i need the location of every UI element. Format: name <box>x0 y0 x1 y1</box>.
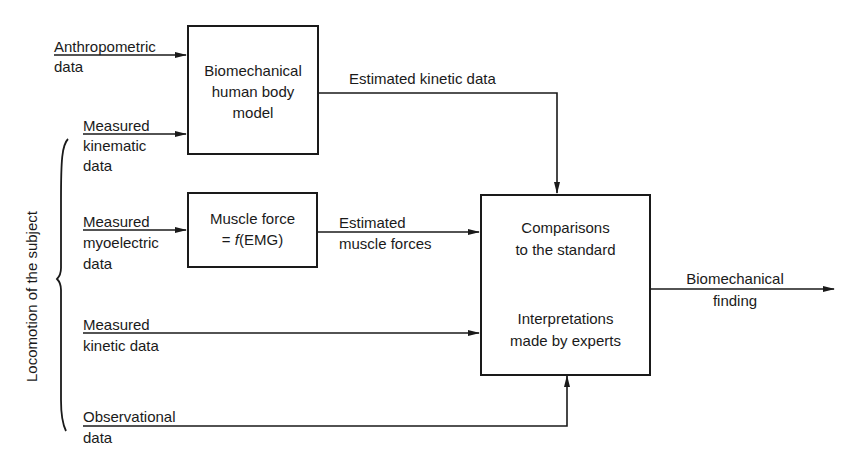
edge-estimated-kinetic: Estimated kinetic data <box>349 70 496 88</box>
muscle-force-box: Muscle force = f(EMG) <box>187 192 318 268</box>
output-line1: Biomechanical <box>675 270 795 288</box>
muscle-force-arg: (EMG) <box>239 231 283 248</box>
body-model-box: Biomechanical human body model <box>187 25 319 155</box>
input-kinematic-line3: data <box>83 157 112 175</box>
comparison-line3: Interpretations <box>482 309 649 329</box>
muscle-force-line1: Muscle force <box>189 209 316 229</box>
comparison-line1: Comparisons <box>482 218 649 238</box>
input-observational-line1: Observational <box>83 408 176 426</box>
muscle-force-line2: = f(EMG) <box>189 230 316 250</box>
body-model-line3: model <box>189 103 317 123</box>
edge-estimated-muscle-line2: muscle forces <box>339 235 432 253</box>
comparison-box: Comparisons to the standard Interpretati… <box>480 194 651 376</box>
input-myoelectric-line1: Measured <box>83 213 150 231</box>
input-myoelectric-line2: myoelectric <box>83 234 159 252</box>
input-observational-line2: data <box>83 429 112 447</box>
input-anthropometric-line2: data <box>54 58 83 76</box>
input-kinetic-line2: kinetic data <box>83 337 159 355</box>
input-kinematic-line2: kinematic <box>83 137 146 155</box>
brace-icon <box>57 139 68 431</box>
input-kinematic-line1: Measured <box>83 117 150 135</box>
edge-estimated-muscle-line1: Estimated <box>339 214 406 232</box>
input-myoelectric-line3: data <box>83 255 112 273</box>
arrow-estimated-kinetic <box>319 93 557 193</box>
comparison-line2: to the standard <box>482 240 649 260</box>
body-model-line1: Biomechanical <box>189 61 317 81</box>
input-anthropometric-line1: Anthropometric <box>54 38 156 56</box>
body-model-line2: human body <box>189 82 317 102</box>
output-line2: finding <box>675 292 795 310</box>
muscle-force-equals: = <box>222 231 235 248</box>
input-kinetic-line1: Measured <box>83 316 150 334</box>
group-label-locomotion: Locomotion of the subject <box>23 211 40 382</box>
comparison-line4: made by experts <box>482 331 649 351</box>
